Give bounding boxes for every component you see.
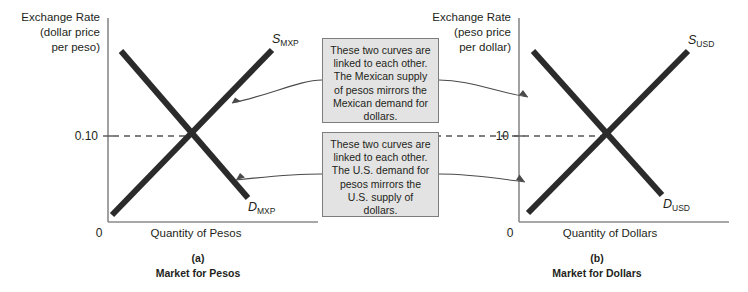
panel-market-for-pesos: Exchange Rate (dollar price per peso) 0.… xyxy=(0,0,374,292)
y-axis-title-line2-right: (peso price xyxy=(454,26,511,38)
supply-curve-label-pesos: SMXP xyxy=(272,32,299,48)
panel-caption-right: Market for Dollars xyxy=(552,267,641,279)
demand-curve-dollars xyxy=(533,51,662,195)
origin-label-right: 0 xyxy=(507,226,514,240)
origin-label-left: 0 xyxy=(96,226,103,240)
panel-letter-left: (a) xyxy=(192,252,205,264)
panel-caption-left: Market for Pesos xyxy=(156,267,241,279)
y-axis-title-line2-left: (dollar price xyxy=(40,26,100,38)
x-axis-title-left: Quantity of Pesos xyxy=(151,227,242,239)
y-axis-title-line3-left: per peso) xyxy=(51,41,100,53)
y-axis-title-line1-left: Exchange Rate xyxy=(21,11,100,23)
y-tick-label-right: 10 xyxy=(496,129,510,143)
y-axis-title-line3-right: per dollar) xyxy=(459,41,511,53)
figure-container: Exchange Rate (dollar price per peso) 0.… xyxy=(0,0,748,292)
demand-curve-label-pesos: DMXP xyxy=(248,200,276,216)
supply-curve-label-dollars: SUSD xyxy=(688,33,714,49)
y-axis-title-line1-right: Exchange Rate xyxy=(432,11,511,23)
supply-curve-pesos xyxy=(112,50,272,215)
callout-box-us: These two curves are linked to each othe… xyxy=(322,132,439,217)
demand-curve-pesos xyxy=(121,51,248,198)
y-tick-label-left: 0.10 xyxy=(75,129,99,143)
demand-curve-label-dollars: DUSD xyxy=(663,197,690,213)
x-axis-title-right: Quantity of Dollars xyxy=(563,227,658,239)
callout-box-mexican: These two curves are linked to each othe… xyxy=(322,38,439,123)
chart-market-for-pesos: Exchange Rate (dollar price per peso) 0.… xyxy=(0,0,374,292)
panel-letter-right: (b) xyxy=(590,252,603,264)
